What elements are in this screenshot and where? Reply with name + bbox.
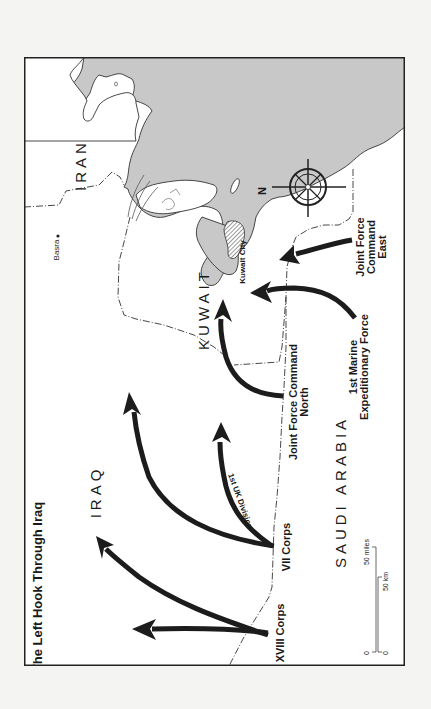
city-label-basra: Basra [52,239,61,260]
svg-text:0: 0 [382,651,389,655]
force-label-xviii-corps: XVIII Corps [274,604,286,663]
compass-north-label: N [256,187,268,195]
map-title: The Left Hook Through Iraq [30,502,45,666]
country-label-iran: IRAN [72,139,89,191]
island [115,82,118,86]
country-label-kuwait: KUWAIT [195,268,212,350]
svg-text:Expeditionary Force: Expeditionary Force [358,314,370,420]
city-label-kuwait-city: Kuwait City [238,240,247,284]
country-label-iraq: IRAQ [87,466,104,519]
basra-marker [56,234,59,237]
map-canvas: N IRAN IRAQ KUWAIT SAUDI ARABIA Basra Ku… [24,57,405,666]
svg-text:50 miles: 50 miles [363,539,370,566]
map-frame: N IRAN IRAQ KUWAIT SAUDI ARABIA Basra Ku… [24,57,405,666]
svg-text:50 km: 50 km [382,572,389,591]
svg-text:0: 0 [363,651,370,655]
svg-text:North: North [298,387,310,417]
country-label-saudi-arabia: SAUDI ARABIA [332,416,349,568]
force-label-vii-corps: VII Corps [280,523,292,571]
svg-text:East: East [376,235,388,259]
